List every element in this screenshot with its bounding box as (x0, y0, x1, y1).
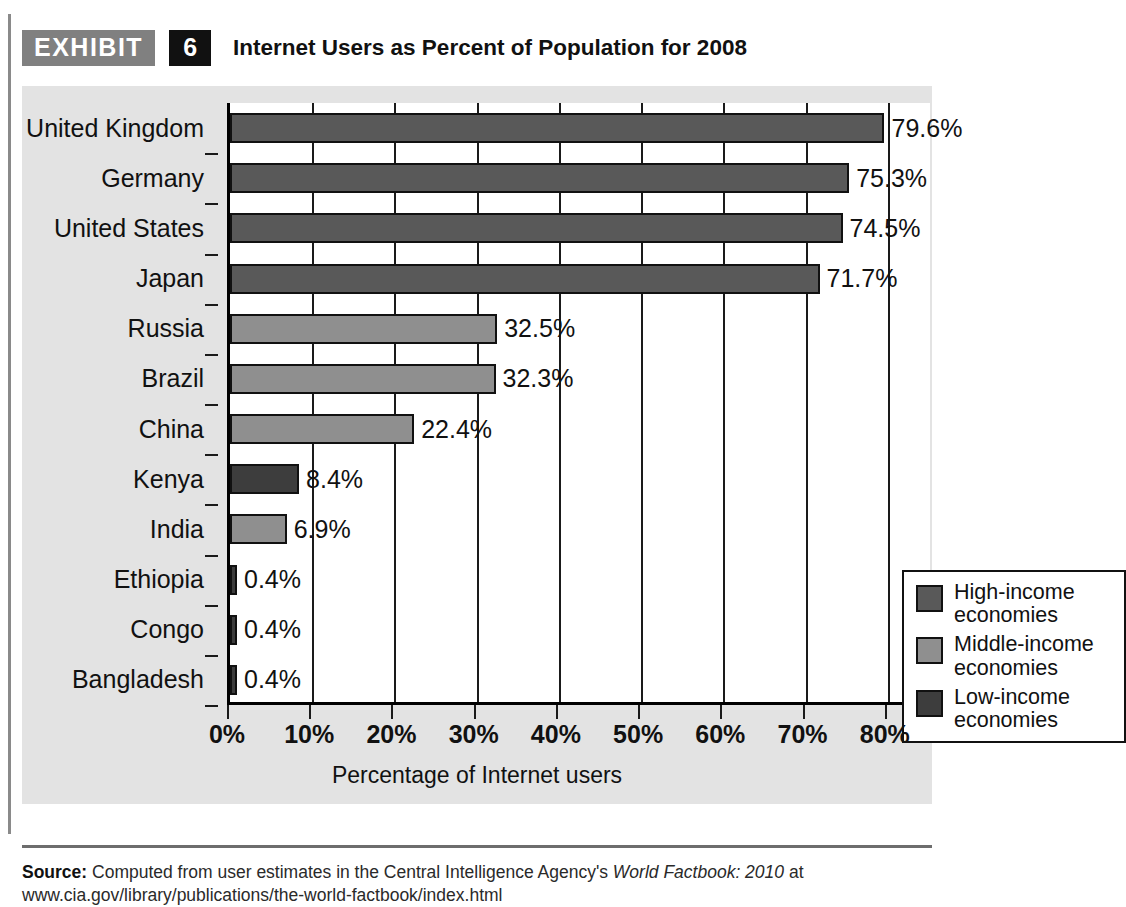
legend-label-high-income: High-income economies (954, 581, 1075, 627)
legend-label-high-income-line1: High-income (954, 581, 1075, 604)
bar-row: 8.4% (230, 454, 930, 504)
bar (230, 314, 497, 344)
y-axis-tick (205, 555, 218, 557)
x-axis-tick (885, 705, 887, 719)
y-axis-tick (205, 655, 218, 657)
bar-value-label: 79.6% (891, 116, 962, 141)
bar-row: 0.4% (230, 555, 930, 605)
bar-value-label: 0.4% (244, 617, 301, 642)
bar (230, 514, 287, 544)
bar-value-label: 32.3% (503, 366, 574, 391)
y-axis-tick (205, 304, 218, 306)
bar (230, 414, 414, 444)
legend-label-middle-income-line2: economies (954, 657, 1094, 680)
legend-swatch-high-income (916, 585, 943, 612)
y-axis-label-bangladesh: Bangladesh (72, 655, 204, 705)
y-axis-label-kenya: Kenya (133, 454, 204, 504)
bar-value-label: 75.3% (856, 166, 927, 191)
x-axis-tick (556, 705, 558, 719)
y-axis-tick (205, 203, 218, 205)
legend-label-middle-income: Middle-income economies (954, 633, 1094, 679)
y-axis-tick (205, 454, 218, 456)
y-axis-tick (205, 404, 218, 406)
legend-item-middle-income: Middle-income economies (916, 633, 1114, 679)
exhibit-header: EXHIBIT 6 Internet Users as Percent of P… (22, 28, 747, 68)
bar-value-label: 22.4% (421, 417, 492, 442)
bar-row: 22.4% (230, 404, 930, 454)
exhibit-label: EXHIBIT (22, 30, 155, 66)
bar (230, 163, 849, 193)
bar-row: 75.3% (230, 153, 930, 203)
bar (230, 665, 237, 695)
x-axis-tick-label: 40% (531, 720, 581, 749)
bar-row: 32.3% (230, 354, 930, 404)
bar (230, 113, 884, 143)
y-axis-tick (205, 254, 218, 256)
bar (230, 464, 299, 494)
source-label: Source: (22, 862, 87, 882)
y-axis-tick (205, 605, 218, 607)
bar-row: 79.6% (230, 103, 930, 153)
bar-row: 0.4% (230, 605, 930, 655)
bar-value-label: 8.4% (306, 467, 363, 492)
x-axis-tick (474, 705, 476, 719)
bar-value-label: 74.5% (850, 216, 921, 241)
bar-row: 0.4% (230, 655, 930, 705)
legend-item-low-income: Low-income economies (916, 686, 1114, 732)
legend-swatch-middle-income (916, 637, 943, 664)
exhibit-number-badge: 6 (169, 30, 211, 66)
source-note: Source: Computed from user estimates in … (22, 861, 942, 907)
legend-item-high-income: High-income economies (916, 581, 1114, 627)
y-axis-label-germany: Germany (101, 153, 204, 203)
y-axis-tick (205, 705, 218, 707)
bar-value-label: 71.7% (827, 266, 898, 291)
y-axis-category-labels: United KingdomGermanyUnited StatesJapanR… (22, 103, 218, 705)
y-axis-label-ethiopia: Ethiopia (114, 555, 204, 605)
x-axis-tick (720, 705, 722, 719)
x-axis-tick-label: 10% (284, 720, 334, 749)
x-axis-tick-label: 20% (366, 720, 416, 749)
x-axis-tick (391, 705, 393, 719)
bar-row: 74.5% (230, 203, 930, 253)
y-axis-label-brazil: Brazil (141, 354, 204, 404)
y-axis-tick (205, 354, 218, 356)
bar-value-label: 0.4% (244, 667, 301, 692)
bar (230, 364, 496, 394)
y-axis-tick (205, 153, 218, 155)
chart-panel: United KingdomGermanyUnited StatesJapanR… (22, 86, 932, 804)
bar (230, 213, 843, 243)
x-axis-ticks (227, 705, 930, 719)
legend-label-low-income-line2: economies (954, 709, 1070, 732)
legend-label-middle-income-line1: Middle-income (954, 633, 1094, 656)
x-axis-tick-label: 60% (695, 720, 745, 749)
source-text-before: Computed from user estimates in the Cent… (87, 862, 613, 882)
x-axis-tick (638, 705, 640, 719)
x-axis-tick-labels: 0%10%20%30%40%50%60%70%80% (227, 720, 930, 752)
bar-value-label: 6.9% (294, 517, 351, 542)
bar (230, 615, 237, 645)
source-divider (22, 845, 932, 848)
y-axis-tick (205, 504, 218, 506)
y-axis-label-united-kingdom: United Kingdom (26, 103, 204, 153)
page-left-rule (8, 14, 11, 834)
bar-row: 6.9% (230, 504, 930, 554)
plot-area: 79.6%75.3%74.5%71.7%32.5%32.3%22.4%8.4%6… (227, 103, 930, 705)
bar (230, 264, 820, 294)
bar-value-label: 0.4% (244, 567, 301, 592)
x-axis-title: Percentage of Internet users (22, 762, 932, 789)
x-axis-tick-label: 80% (860, 720, 910, 749)
exhibit-title: Internet Users as Percent of Population … (233, 35, 747, 61)
y-axis-label-congo: Congo (130, 605, 204, 655)
x-axis-tick-label: 70% (778, 720, 828, 749)
chart-legend: High-income economies Middle-income econ… (902, 570, 1126, 743)
bar-row: 71.7% (230, 254, 930, 304)
x-axis-tick-label: 0% (209, 720, 245, 749)
y-axis-label-india: India (150, 504, 204, 554)
bar-row: 32.5% (230, 304, 930, 354)
bar (230, 565, 237, 595)
y-axis-label-china: China (139, 404, 204, 454)
legend-label-low-income-line1: Low-income (954, 686, 1070, 709)
y-axis-label-russia: Russia (128, 304, 204, 354)
x-axis-tick (309, 705, 311, 719)
x-axis-tick-label: 30% (449, 720, 499, 749)
